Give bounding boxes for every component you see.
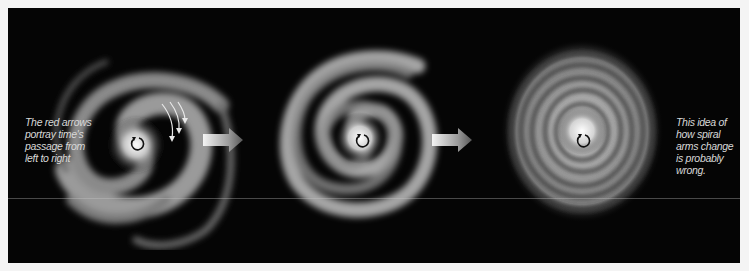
divider-line xyxy=(8,198,740,199)
right-arrow-icon xyxy=(203,128,243,152)
right-arrow-icon xyxy=(432,128,472,152)
counterclockwise-rotation-icon xyxy=(129,135,147,153)
counterclockwise-rotation-icon xyxy=(354,132,372,150)
diagram-panel: The red arrows portray time's passage fr… xyxy=(8,8,740,263)
caption-idea-wrong: This idea of how spiral arms change is p… xyxy=(676,116,740,176)
motion-arrows-icon xyxy=(160,100,200,144)
caption-time-arrows: The red arrows portray time's passage fr… xyxy=(25,116,97,164)
counterclockwise-rotation-icon xyxy=(575,132,593,150)
